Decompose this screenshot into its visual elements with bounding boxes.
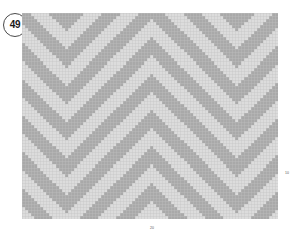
x-axis-tick-label: 20 [150,227,154,231]
chevron-pattern-figure: 49 20 10 [0,0,300,236]
pattern-cell-grid [22,13,278,219]
pattern-canvas [22,13,278,219]
pattern-plot-area [22,13,278,219]
y-axis-tick-label: 10 [285,172,289,176]
figure-number-label: 49 [10,20,21,30]
